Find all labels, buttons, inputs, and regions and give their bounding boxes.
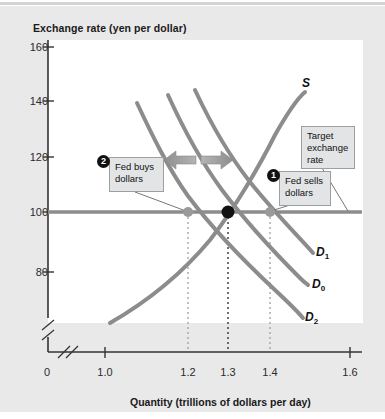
target-exchange-rate-callout: Target exchange rate [301, 126, 355, 169]
demand-curve-d1-label: D1 [316, 245, 329, 261]
d0-subscript: 0 [321, 284, 325, 293]
d2-base: D [305, 310, 314, 324]
fed-sells-dollars-callout: Fed sells dollars [279, 171, 331, 206]
equilibrium-point-marker [222, 206, 235, 219]
target-line-1: Target [307, 130, 350, 142]
fed-buys-leader-line [135, 192, 186, 211]
demand-curve-d2-label: D2 [305, 310, 318, 326]
supply-curve-label: S [302, 76, 310, 90]
exchange-rate-figure: Exchange rate (yen per dollar) Quantity … [0, 0, 385, 419]
fed-sells-point-marker [265, 207, 275, 217]
demand-curve-d0-label: D0 [312, 277, 325, 293]
annotation-badge-2: 2 [97, 155, 110, 168]
fed-sells-line-2: dollars [285, 187, 326, 199]
fed-buys-line-2: dollars [115, 173, 159, 185]
fed-buys-point-marker [183, 207, 193, 217]
d1-base: D [316, 245, 325, 259]
fed-sells-line-1: Fed sells [285, 175, 326, 187]
target-line-2: exchange [307, 142, 350, 154]
target-line-3: rate [307, 154, 350, 166]
d0-base: D [312, 277, 321, 291]
fed-buys-dollars-callout: Fed buys dollars [109, 157, 164, 192]
fed-buys-line-1: Fed buys [115, 161, 159, 173]
d1-subscript: 1 [325, 252, 329, 261]
annotation-badge-1: 1 [267, 169, 280, 182]
d2-subscript: 2 [314, 317, 318, 326]
chart-canvas [0, 0, 385, 419]
